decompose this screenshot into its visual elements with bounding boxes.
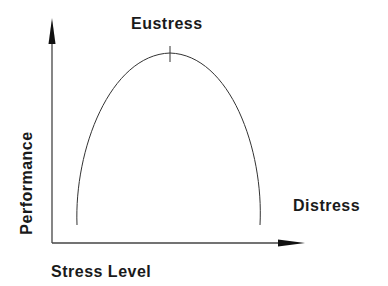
diagram-svg [0, 0, 388, 286]
x-axis-arrowhead-icon [278, 240, 305, 247]
eustress-label: Eustress [131, 15, 203, 33]
x-axis-label: Stress Level [51, 263, 151, 281]
distress-label: Distress [293, 197, 360, 215]
stress-performance-diagram: Eustress Distress Stress Level Performan… [0, 0, 388, 286]
y-axis-label: Performance [18, 131, 36, 234]
y-axis-arrowhead-icon [49, 18, 56, 44]
performance-curve [77, 53, 260, 225]
